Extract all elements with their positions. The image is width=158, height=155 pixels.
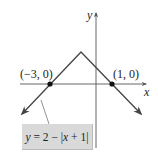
point-right-intercept xyxy=(109,81,114,86)
callout-leader xyxy=(41,100,49,124)
x-axis-label: x xyxy=(143,85,150,99)
point-left-label: (−3, 0) xyxy=(20,67,53,81)
y-axis-label: y xyxy=(86,8,93,22)
eq-mid: = 2 − xyxy=(31,131,61,143)
point-left-intercept xyxy=(47,81,52,86)
eq-abs-close: | xyxy=(86,131,88,143)
function-graph xyxy=(22,52,141,114)
eq-rest: + 1 xyxy=(68,131,86,143)
equation-callout: y = 2 − |x + 1| xyxy=(22,124,93,150)
point-right-label: (1, 0) xyxy=(113,67,139,81)
